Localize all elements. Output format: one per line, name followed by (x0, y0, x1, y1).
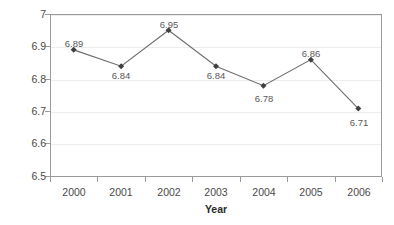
x-tick-label: 2003 (192, 186, 240, 198)
x-tick-mark (97, 177, 98, 182)
data-point-label: 6.95 (149, 19, 189, 30)
x-tick-label: 2004 (240, 186, 288, 198)
plot-area (50, 14, 382, 177)
x-tick-mark (335, 177, 336, 182)
data-point-label: 6.84 (101, 70, 141, 81)
y-tick-label: 6.5 (6, 171, 46, 182)
x-tick-label: 2001 (97, 186, 145, 198)
x-tick-mark (240, 177, 241, 182)
y-tick-label: 6.9 (6, 41, 46, 52)
x-tick-label: 2005 (287, 186, 335, 198)
x-tick-mark (382, 177, 383, 182)
x-tick-mark (145, 177, 146, 182)
gridline (51, 47, 381, 48)
x-tick-label: 2000 (50, 186, 98, 198)
data-point-label: 6.89 (54, 38, 94, 49)
data-point-label: 6.78 (244, 93, 284, 104)
y-tick-label: 7 (6, 9, 46, 20)
x-tick-mark (287, 177, 288, 182)
y-tick-label: 6.7 (6, 106, 46, 117)
x-tick-label: 2002 (145, 186, 193, 198)
y-tick-label: 6.8 (6, 74, 46, 85)
x-tick-label: 2006 (335, 186, 383, 198)
data-point-label: 6.86 (291, 48, 331, 59)
line-chart: Rate per 1,000 live births 7 6.9 6.8 6.7… (0, 0, 394, 225)
x-tick-mark (192, 177, 193, 182)
y-tick-label: 6.6 (6, 138, 46, 149)
data-point-label: 6.71 (339, 117, 379, 128)
data-point-label: 6.84 (196, 70, 236, 81)
gridline (51, 144, 381, 145)
gridline (51, 112, 381, 113)
x-axis-title: Year (50, 203, 382, 215)
gridline (51, 15, 381, 16)
x-tick-mark (50, 177, 51, 182)
